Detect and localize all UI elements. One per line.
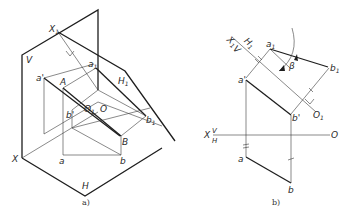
label-a1-b: a1: [266, 39, 275, 50]
projector-a-prime-a1-b: [246, 49, 270, 78]
label-x: X: [11, 154, 19, 164]
label-v-b: V: [212, 127, 218, 135]
label-b1-b: b1: [330, 63, 340, 74]
label-h1: H1: [118, 76, 129, 87]
projector-B-b1: [121, 116, 146, 136]
label-b-prime-b: b': [292, 113, 300, 123]
label-a-b: a: [238, 154, 244, 164]
label-x-b: X: [203, 130, 211, 140]
line-a-b-b: [246, 157, 291, 183]
label-b-b: b: [288, 185, 294, 195]
label-h: H: [82, 181, 89, 191]
label-h1-b: H1: [241, 36, 256, 51]
beta-arrow-top-icon: [294, 54, 298, 61]
label-a: a: [59, 156, 65, 166]
label-o1-b: O1: [313, 110, 324, 121]
figure-a: X1 V a' A a1 H1 O1 O b' b1 B X a b H a): [11, 10, 175, 207]
label-a-prime: a': [36, 73, 44, 83]
label-a1: a1: [88, 59, 97, 70]
tick-mark: [258, 56, 262, 60]
label-o: O: [100, 104, 107, 114]
label-o1: O1: [84, 104, 95, 115]
label-x1: X1: [48, 24, 59, 35]
label-h-b: H: [212, 137, 218, 145]
label-o-b: O: [331, 130, 338, 140]
label-b: b: [120, 156, 126, 166]
label-v: V: [26, 55, 33, 65]
label-b1: b1: [146, 115, 156, 126]
label-b-prime: b': [66, 110, 74, 120]
line-a-prime-b-prime-b: [246, 80, 291, 115]
line-a1-b1-b: [270, 49, 328, 67]
figure-b: X1 V H1 a1 β b1 a' b' O1 X V H O a b b): [203, 28, 340, 207]
label-a-prime-b: a': [238, 75, 246, 85]
caption-a: a): [82, 198, 90, 207]
caption-b: b): [272, 198, 280, 207]
x-axis: [22, 112, 98, 158]
h1-plane-outline: [58, 32, 175, 141]
projector-a-prime-a1: [44, 64, 94, 78]
label-A: A: [59, 77, 66, 87]
projector-b-prime-b1-b: [291, 68, 329, 114]
beta-arrow-icon: [279, 65, 285, 71]
projection-diagram: X1 V a' A a1 H1 O1 O b' b1 B X a b H a): [0, 0, 350, 219]
label-beta: β: [288, 61, 295, 71]
projector-b-prime-b: [72, 128, 121, 155]
label-B: B: [122, 137, 128, 147]
